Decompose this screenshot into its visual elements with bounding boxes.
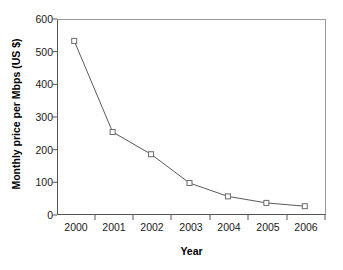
chart-figure: 600 500 400 300 200 100 0: [0, 0, 343, 270]
x-tick-2006: 2006: [284, 222, 328, 233]
x-axis-tick-marks: [95, 215, 325, 220]
data-point-2004: [225, 194, 230, 199]
x-axis-title: Year: [57, 245, 326, 257]
series-markers: [72, 38, 308, 208]
data-point-2005: [264, 200, 269, 205]
y-axis-title: Monthly price per Mbps (US $): [10, 14, 22, 214]
data-point-2002: [149, 152, 154, 157]
data-point-2006: [302, 204, 307, 209]
y-axis-tick-marks: [52, 19, 57, 215]
x-axis-tick-labels: 2000 2001 2002 2003 2004 2005 2006: [0, 222, 343, 238]
data-point-2000: [72, 38, 77, 43]
x-tick-2004: 2004: [207, 222, 251, 233]
x-tick-2002: 2002: [130, 222, 174, 233]
data-point-2001: [110, 130, 115, 135]
data-point-2003: [187, 180, 192, 185]
